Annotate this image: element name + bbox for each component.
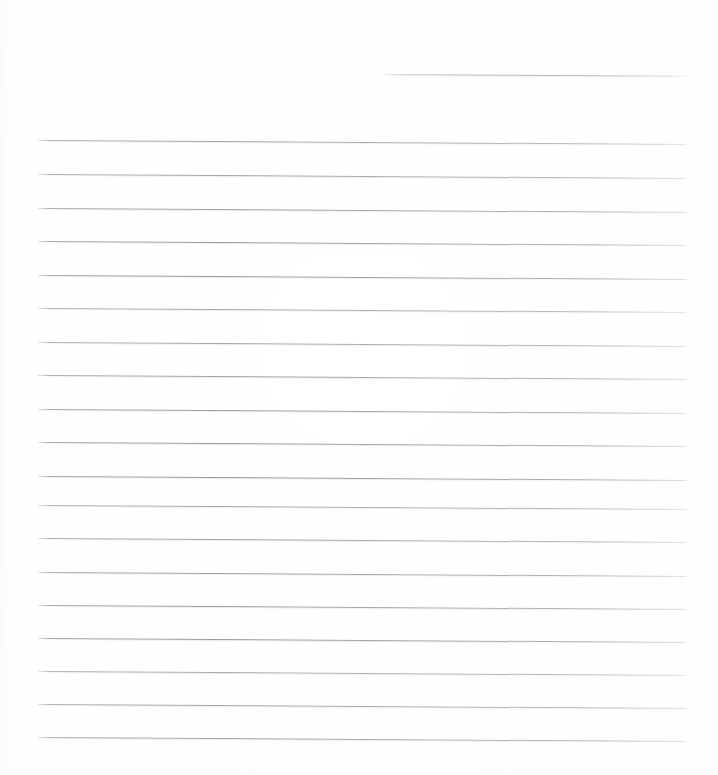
writing-area xyxy=(38,100,688,760)
scanned-page xyxy=(0,0,718,775)
ruled-line xyxy=(383,74,688,77)
